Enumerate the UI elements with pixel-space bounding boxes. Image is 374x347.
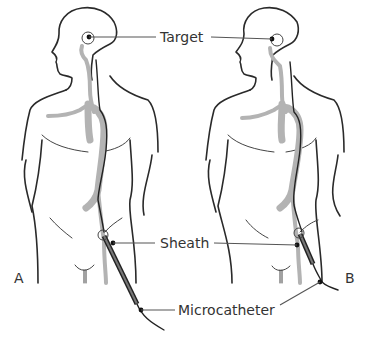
target-leader-b	[211, 37, 272, 39]
figure-b-right-torso	[316, 140, 322, 282]
figure-a-right-torso	[130, 140, 136, 283]
figure-a-hip-left	[50, 218, 72, 238]
figure-b-groin	[272, 266, 290, 283]
figure-a-chest-left	[42, 135, 88, 152]
figure-b-body-outline	[236, 8, 298, 90]
figure-b-left-arm	[208, 160, 216, 212]
figure-a: A	[14, 8, 164, 330]
figure-a-left-side	[22, 90, 66, 160]
figure-b-aortic-arch	[280, 104, 300, 208]
microcatheter-leader-b	[280, 282, 320, 305]
figure-b-microcatheter	[313, 264, 338, 290]
figure-b-chest-left	[228, 135, 274, 152]
panel-label-b: B	[345, 270, 355, 286]
panel-label-a: A	[14, 270, 24, 286]
figure-b-hip-left	[246, 220, 268, 238]
figure-a-left-torso	[32, 140, 42, 283]
figure-a-aortic-arch	[86, 104, 104, 208]
label-target: Target	[159, 29, 204, 45]
figure-a-groin	[75, 265, 94, 283]
label-sheath: Sheath	[160, 235, 209, 251]
figure-b: B	[206, 8, 355, 290]
sheath-leader-b	[214, 243, 297, 245]
figure-a-hip-right	[105, 218, 122, 232]
figure-a-left-arm	[24, 160, 32, 212]
figure-b-right-arm	[333, 155, 340, 216]
figure-b-left-torso	[218, 140, 232, 283]
figure-a-right-side	[110, 76, 158, 152]
label-microcatheter: Microcatheter	[178, 302, 275, 318]
figure-a-right-arm	[143, 155, 152, 215]
catheter-diagram: A B Ta	[0, 0, 374, 347]
figure-a-body-outline	[52, 8, 117, 90]
